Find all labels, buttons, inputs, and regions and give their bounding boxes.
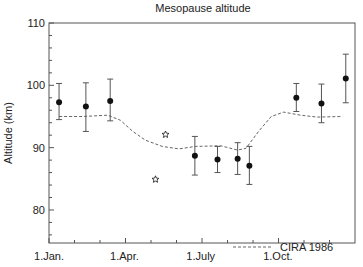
data-point <box>343 75 349 81</box>
y-tick-label: 90 <box>33 142 45 154</box>
x-tick-label: 1.Jan. <box>34 250 64 262</box>
legend-label-cira: CIRA 1986 <box>280 241 333 253</box>
y-tick-label: 80 <box>33 204 45 216</box>
data-point <box>246 163 252 169</box>
x-tick-label: 1.July <box>186 250 215 262</box>
chart-title: Mesopause altitude <box>155 2 250 14</box>
data-point <box>293 95 299 101</box>
data-point <box>107 98 113 104</box>
data-point <box>235 156 241 162</box>
y-tick-label: 100 <box>27 79 45 91</box>
y-tick-label: 110 <box>27 17 45 29</box>
data-point <box>192 153 198 159</box>
data-point <box>83 104 89 110</box>
star-marker <box>162 131 169 138</box>
data-point <box>215 156 221 162</box>
star-marker <box>152 176 159 183</box>
x-tick-label: 1.Apr. <box>110 250 139 262</box>
plot-area: 80901001101.Jan.1.Apr.1.July1.Oct. <box>27 17 355 262</box>
cira-1986-curve <box>59 112 342 150</box>
y-axis-label: Altitude (km) <box>2 102 14 164</box>
plot-frame <box>49 23 355 243</box>
mesopause-chart: Mesopause altitude Altitude (km) 8090100… <box>0 0 363 267</box>
data-point <box>56 99 62 105</box>
data-point <box>318 100 324 106</box>
